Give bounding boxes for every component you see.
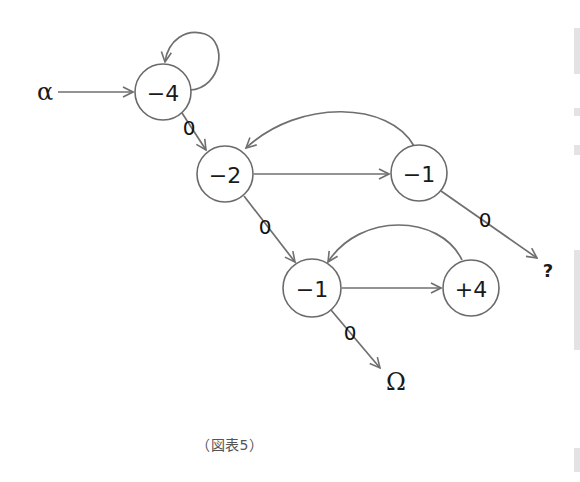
node-minus1-upper: −1 [391,145,447,201]
node-label: −1 [403,162,435,187]
edge-plus4-back-to-minus1-lower [328,225,462,262]
node-label: −1 [296,277,328,302]
node-minus4: −4 [135,64,191,120]
node-label: −2 [209,163,241,188]
clipped-text-fragment [574,448,580,472]
edge-label-minus2-minus1: 0 [259,215,272,239]
edge-label-minus1-omega: 0 [344,321,357,345]
clipped-text-fragment [574,28,580,74]
clipped-text-fragment [574,250,580,350]
edge-label-minus4-minus2: 0 [183,116,196,140]
node-label: −4 [147,81,179,106]
figure-caption: （図表5） [196,434,263,454]
clipped-text-fragment [574,108,580,116]
clipped-text-fragment [574,145,580,155]
edge-minus1-upper-back-to-minus2 [246,112,414,148]
unknown-symbol: ? [543,260,553,281]
node-plus4: +4 [443,260,499,316]
end-symbol-omega: Ω [386,368,406,396]
node-minus2: −2 [197,146,253,202]
state-transition-diagram: α 0 0 ? 0 0 Ω −4 −2 −1 −1 +4 [0,0,580,482]
node-minus1-lower: −1 [283,259,341,317]
node-label: +4 [455,277,487,302]
edge-label-minus1-unknown: 0 [479,208,492,232]
start-symbol-alpha: α [37,78,53,106]
